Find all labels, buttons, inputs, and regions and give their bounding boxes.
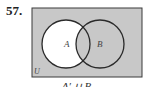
- venn-diagram: A B U: [0, 0, 153, 87]
- label-b: B: [97, 39, 103, 49]
- caption: A′ ∪ B: [0, 80, 153, 87]
- label-a: A: [63, 39, 70, 49]
